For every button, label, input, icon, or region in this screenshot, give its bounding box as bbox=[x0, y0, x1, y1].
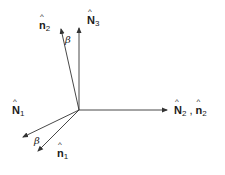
label-n2-rotated: n2 bbox=[39, 20, 50, 33]
label-N1: N1 bbox=[12, 105, 24, 118]
label-base: n bbox=[57, 148, 64, 159]
label-base: N bbox=[12, 105, 20, 116]
label-sub: 2 bbox=[46, 24, 50, 33]
label-N3: N3 bbox=[87, 15, 99, 28]
angle-beta-upper: β bbox=[65, 34, 71, 45]
label-base: n bbox=[195, 105, 202, 116]
label-sub: 1 bbox=[20, 109, 24, 118]
label-sub: 2 bbox=[182, 109, 186, 118]
label-N2-n2: N2,n2 bbox=[174, 105, 207, 118]
vector-diagram bbox=[0, 0, 225, 175]
label-separator: , bbox=[189, 104, 192, 116]
vector-N1 bbox=[23, 110, 79, 137]
label-base: n bbox=[39, 20, 46, 31]
angle-beta-lower: β bbox=[34, 135, 40, 146]
label-sub: 2 bbox=[202, 109, 206, 118]
label-sub: 3 bbox=[95, 19, 99, 28]
label-n1: n1 bbox=[57, 148, 68, 161]
label-base: N bbox=[87, 15, 95, 26]
label-base: N bbox=[174, 105, 182, 116]
label-sub: 1 bbox=[64, 152, 68, 161]
